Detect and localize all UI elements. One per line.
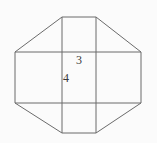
octagon-outline (15, 17, 141, 133)
dimension-label-width: 3 (76, 53, 82, 67)
dimension-label-height: 4 (63, 71, 69, 85)
figure-canvas: 3 4 (0, 0, 157, 143)
octagon-diagram: 3 4 (0, 0, 157, 143)
